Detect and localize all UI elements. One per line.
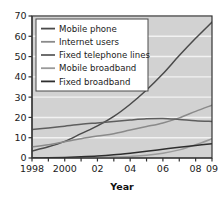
- x-axis-tick-label: 02: [91, 163, 103, 174]
- x-axis-tick-label: 1998: [20, 163, 44, 174]
- y-axis-tick-label: 60: [14, 31, 26, 42]
- legend-label: Mobile phone: [59, 24, 117, 34]
- x-axis-tick-label: 06: [157, 163, 169, 174]
- x-axis-tick-label: 04: [124, 163, 136, 174]
- x-axis-title: Year: [109, 181, 134, 192]
- line-chart: 010203040506070 199820000204060809 Year …: [0, 0, 220, 201]
- y-axis-tick-label: 30: [14, 92, 26, 103]
- y-axis-tick-label: 50: [14, 51, 26, 62]
- y-axis-tick-label: 10: [14, 132, 26, 143]
- legend-label: Mobile broadband: [59, 63, 136, 73]
- x-axis-tick-label: 09: [206, 163, 218, 174]
- legend-label: Internet users: [59, 37, 120, 47]
- y-axis-tick-label: 0: [20, 152, 26, 163]
- legend-label: Fixed telephone lines: [59, 50, 150, 60]
- y-axis-tick-label: 70: [14, 10, 26, 21]
- chart-container: 010203040506070 199820000204060809 Year …: [0, 0, 220, 201]
- y-axis-tick-label: 40: [14, 71, 26, 82]
- x-axis-tick-label: 08: [190, 163, 202, 174]
- legend-label: Fixed broadband: [59, 77, 130, 87]
- x-axis-tick-label: 2000: [53, 163, 77, 174]
- chart-legend: Mobile phoneInternet usersFixed telephon…: [36, 19, 150, 91]
- y-axis-tick-label: 20: [14, 112, 26, 123]
